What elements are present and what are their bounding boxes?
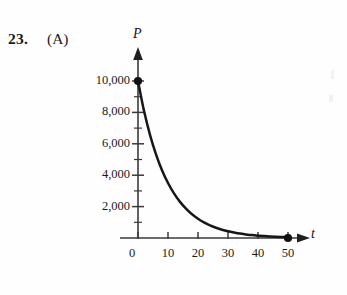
decay-graph-figure: P t 2,0004,0006,0008,00010,000 010203040… bbox=[0, 0, 347, 295]
y-axis-arrowhead bbox=[133, 47, 143, 60]
y-axis-tick-label: 6,000 bbox=[72, 136, 130, 150]
x-axis-tick-label: 50 bbox=[273, 246, 303, 261]
x-axis-arrowhead bbox=[297, 233, 310, 242]
y-axis-tick-label: 10,000 bbox=[72, 73, 130, 87]
x-axis-tick-label: 20 bbox=[183, 246, 213, 261]
x-axis-tick-label: 40 bbox=[243, 246, 273, 261]
scan-artifact bbox=[331, 70, 334, 79]
end-point-marker bbox=[284, 234, 292, 242]
x-axis-tick-label: 30 bbox=[213, 246, 243, 261]
y-axis-tick-label: 4,000 bbox=[72, 167, 130, 181]
x-axis-tick-label: 0 bbox=[117, 246, 147, 261]
figure-page: 23. (A) P t 2,0004,0006,0008,00010,000 0… bbox=[0, 0, 347, 295]
x-axis-title: t bbox=[311, 226, 315, 242]
y-axis-title: P bbox=[133, 26, 142, 42]
start-point-marker bbox=[134, 77, 142, 85]
scan-artifact bbox=[329, 95, 333, 102]
y-axis-tick-label-text: 6,000 bbox=[72, 136, 130, 151]
y-axis-tick-label-text: 10,000 bbox=[72, 73, 130, 88]
y-axis-tick-label: 8,000 bbox=[72, 104, 130, 118]
y-axis-tick-label-text: 8,000 bbox=[72, 104, 130, 119]
y-axis-tick-label-text: 4,000 bbox=[72, 167, 130, 182]
decay-curve bbox=[138, 81, 288, 237]
y-axis-tick-label-text: 2,000 bbox=[72, 199, 130, 214]
x-axis-tick-label: 10 bbox=[153, 246, 183, 261]
y-axis-tick-label: 2,000 bbox=[72, 199, 130, 213]
